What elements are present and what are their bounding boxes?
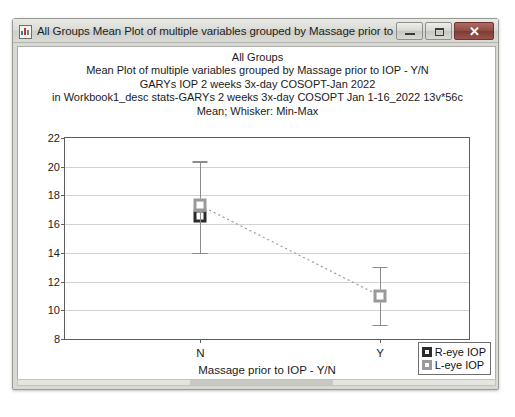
mean-plot-chart: All Groups Mean Plot of multiple variabl… (18, 47, 496, 380)
maximize-icon (435, 28, 444, 36)
statistica-graph-icon (18, 24, 33, 38)
close-button[interactable]: ✕ (454, 22, 494, 40)
window-controls: ✕ (396, 22, 496, 40)
y-axis-tick-label: 20 (48, 161, 60, 173)
x-axis-tick-mark (200, 339, 201, 343)
chart-title-line-3: GARYs IOP 2 weeks 3x-day COSOPT-Jan 2022 (18, 78, 496, 91)
window-title: All Groups Mean Plot of multiple variabl… (37, 25, 396, 37)
error-bar-cap (193, 253, 208, 254)
series-connector-line (65, 138, 469, 339)
data-point-marker[interactable] (194, 199, 207, 212)
error-bar-cap (193, 161, 208, 162)
chart-title-line-1: All Groups (18, 51, 496, 64)
x-axis-tick-label: Y (376, 347, 384, 359)
y-axis-tick-label: 22 (48, 132, 60, 144)
x-axis-tick-label: N (196, 347, 204, 359)
plot-window: All Groups Mean Plot of multiple variabl… (12, 18, 499, 390)
data-point-marker[interactable] (374, 289, 387, 302)
x-axis-title: Massage prior to IOP - Y/N (64, 364, 470, 376)
error-bar-cap (373, 325, 388, 326)
maximize-button[interactable] (425, 22, 452, 40)
plot-area: 810121416182022 NY (64, 137, 470, 340)
y-axis-tick-label: 12 (48, 276, 60, 288)
error-bar-cap (373, 267, 388, 268)
chart-title-block: All Groups Mean Plot of multiple variabl… (18, 51, 496, 118)
minimize-icon (405, 33, 415, 35)
y-axis-tick-label: 10 (48, 304, 60, 316)
y-axis-tick-label: 14 (48, 247, 60, 259)
minimize-button[interactable] (396, 22, 423, 40)
legend-label-l-eye: L-eye IOP (435, 359, 485, 371)
y-axis-tick-label: 8 (54, 333, 60, 345)
scrollbar-thumb[interactable] (190, 380, 333, 385)
close-icon: ✕ (455, 24, 493, 40)
y-axis-tick-mark (61, 339, 65, 340)
x-axis-tick-mark (380, 339, 381, 343)
chart-title-line-4: in Workbook1_desc stats-GARYs 2 weeks 3x… (18, 91, 496, 104)
legend-swatch-r-eye-icon (422, 347, 432, 357)
y-axis-tick-label: 18 (48, 189, 60, 201)
window-title-bar[interactable]: All Groups Mean Plot of multiple variabl… (13, 19, 498, 43)
legend-item-r-eye[interactable]: R-eye IOP (422, 345, 486, 358)
chart-legend[interactable]: R-eye IOP L-eye IOP (418, 342, 491, 375)
y-axis-tick-label: 16 (48, 218, 60, 230)
chart-subtitle-stat: Mean; Whisker: Min-Max (18, 105, 496, 118)
chart-client-area: All Groups Mean Plot of multiple variabl… (17, 46, 496, 380)
legend-label-r-eye: R-eye IOP (435, 346, 486, 358)
legend-swatch-l-eye-icon (422, 360, 432, 370)
horizontal-scrollbar[interactable] (17, 379, 496, 386)
chart-title-line-2: Mean Plot of multiple variables grouped … (18, 64, 496, 77)
legend-item-l-eye[interactable]: L-eye IOP (422, 358, 486, 371)
